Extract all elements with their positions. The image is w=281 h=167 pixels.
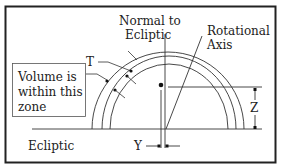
y-arrow-right-icon	[166, 145, 169, 148]
zone-arrow-line-2	[127, 76, 136, 84]
volume-leader-line	[86, 74, 107, 80]
t-label: T	[86, 55, 94, 69]
volume-label-line3: zone	[18, 100, 46, 114]
volume-label-line1: Volume is	[17, 70, 77, 84]
z-label: Z	[250, 101, 258, 115]
ecliptic-label: Ecliptic	[28, 139, 74, 153]
zone-arrow-line-1	[128, 51, 137, 60]
volume-label-line2: within this	[18, 85, 83, 99]
z-arrow-top-icon	[254, 88, 257, 91]
center-dot	[159, 83, 164, 88]
middle-arc	[102, 56, 236, 129]
t-leader-dot	[129, 69, 132, 72]
rotational-axis-line	[166, 36, 202, 129]
diagram-canvas: Z Y Normal to Ecliptic Rotational Axis T…	[0, 0, 281, 167]
rotational-label-line1: Rotational	[207, 24, 270, 38]
rotational-label-line2: Axis	[206, 38, 232, 52]
normal-label-line1: Normal to	[119, 14, 181, 28]
normal-label-line2: Ecliptic	[125, 28, 171, 42]
volume-leader-dot	[105, 79, 108, 82]
y-label: Y	[133, 139, 143, 153]
y-arrow-left-icon	[158, 145, 161, 148]
inner-arc	[110, 64, 228, 129]
zone-arrow-line-3	[115, 90, 125, 98]
z-arrow-bottom-icon	[254, 126, 257, 129]
t-leader-line	[98, 62, 131, 71]
